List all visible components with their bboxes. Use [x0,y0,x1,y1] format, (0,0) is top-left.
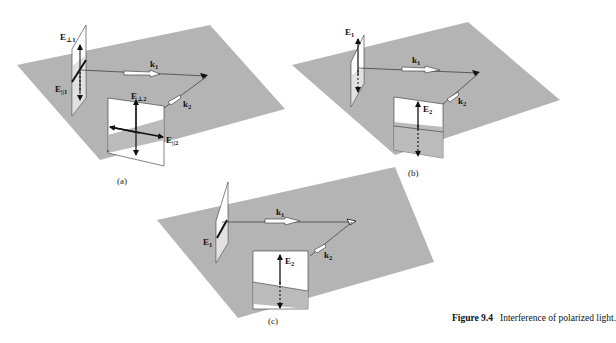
caption-text: Interference of polarized light. [500,313,616,323]
panel-b: E1 k1 k2 E2 (b) [292,22,560,178]
panel-label-a: (a) [117,176,127,186]
figure-caption: Figure 9.4Interference of polarized ligh… [452,313,616,323]
panel-a: E⊥1 E||1 k1 k2 E⊥2 E||2 (a) [17,25,285,186]
figure-number: Figure 9.4 [452,313,493,323]
panel-label-b: (b) [408,168,419,178]
panel-label-c: (c) [268,316,278,326]
svg-text:E1: E1 [345,27,354,38]
panel-c: E1 k1 k2 E2 (c) [157,167,434,326]
svg-text:E⊥1: E⊥1 [60,32,76,43]
